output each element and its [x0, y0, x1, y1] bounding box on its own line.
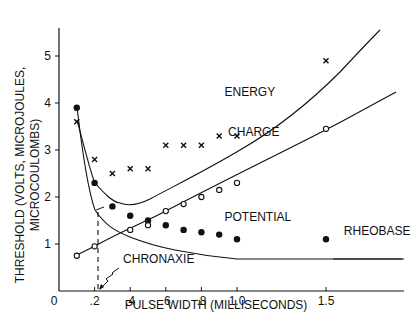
potential-point: [180, 227, 186, 233]
charge-point: [217, 187, 222, 192]
charge-point: [74, 253, 79, 258]
potential-point: [216, 231, 222, 237]
annotation-potential: POTENTIAL: [225, 210, 292, 224]
charge-point: [163, 209, 168, 214]
y-tick-label: 4: [44, 96, 51, 110]
x-tick-label: .2: [90, 294, 100, 308]
y-tick-label: 5: [44, 49, 51, 63]
x-tick-label: 1.5: [318, 294, 335, 308]
svg-text:MICROCOULOMBS): MICROCOULOMBS): [28, 119, 42, 232]
y-axis-label: THRESHOLD (VOLTS, MICROJOULES, MICROCOUL…: [13, 67, 42, 283]
charge-point: [323, 126, 328, 131]
potential-point: [163, 222, 169, 228]
y-tick-label: 3: [44, 143, 51, 157]
chart: 12345 0.2.4.6.81.01.5 THRESHOLD (VOLTS, …: [0, 0, 419, 331]
energy-point: [92, 157, 97, 162]
annotations: ENERGYCHARGEPOTENTIALRHEOBASECHRONAXIE: [123, 85, 410, 266]
energy-point: [110, 171, 115, 176]
energy-point: [324, 58, 329, 63]
chronaxie-tick: [96, 207, 104, 210]
svg-text:THRESHOLD (VOLTS, MICROJOULES,: THRESHOLD (VOLTS, MICROJOULES,: [13, 67, 27, 283]
charge-point: [92, 244, 97, 249]
charge-point: [199, 194, 204, 199]
y-tick-label: 1: [44, 237, 51, 251]
energy-point: [199, 143, 204, 148]
potential-point: [74, 105, 80, 111]
energy-point: [217, 133, 222, 138]
chronaxie-arrowhead: [99, 284, 104, 290]
y-ticks: 12345: [44, 49, 59, 251]
charge-point: [145, 223, 150, 228]
charge-point: [128, 227, 133, 232]
energy-point: [128, 166, 133, 171]
potential-point: [198, 229, 204, 235]
annotation-charge: CHARGE: [228, 125, 279, 139]
annotation-chronaxie: CHRONAXIE: [123, 252, 194, 266]
charge-point: [181, 201, 186, 206]
energy-point: [181, 143, 186, 148]
energy-point: [163, 143, 168, 148]
potential-point: [109, 203, 115, 209]
charge-point: [234, 180, 239, 185]
annotation-energy: ENERGY: [225, 85, 276, 99]
x-tick-label: 0: [51, 294, 58, 308]
y-tick-label: 2: [44, 190, 51, 204]
x-axis-label: PULSE WIDTH (MILLISECONDS): [125, 298, 308, 312]
potential-point: [127, 213, 133, 219]
potential-point: [234, 236, 240, 242]
potential-point: [91, 180, 97, 186]
energy-point: [146, 166, 151, 171]
annotation-rheobase: RHEOBASE: [344, 224, 411, 238]
potential-point: [323, 236, 329, 242]
